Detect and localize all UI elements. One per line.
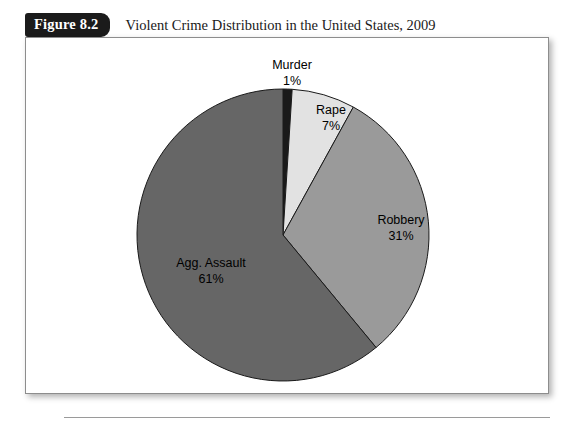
figure-number-tag: Figure 8.2 (25, 13, 110, 37)
page-divider-rule (64, 417, 550, 418)
figure-caption: Figure 8.2 Violent Crime Distribution in… (25, 12, 436, 38)
figure-title: Violent Crime Distribution in the United… (126, 17, 436, 34)
pie-chart-svg (26, 38, 550, 395)
pie-slice-group (137, 89, 429, 381)
pie-chart: Murder 1% Rape 7% Robbery 31% Agg. Assau… (26, 38, 550, 395)
figure-panel: Murder 1% Rape 7% Robbery 31% Agg. Assau… (25, 37, 549, 394)
